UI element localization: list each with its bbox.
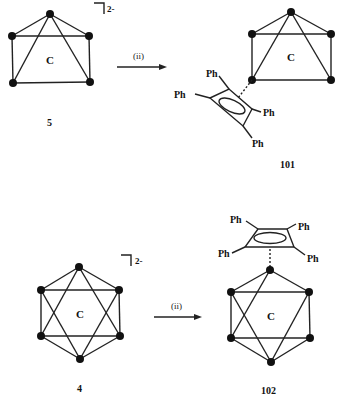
phenyl-label: Ph [298,221,310,232]
condition-label: (ii) [171,301,182,311]
phenyl-label: Ph [174,89,186,100]
structure-101: C Ph Ph Ph Ph 101 [174,8,335,170]
phenyl-label: Ph [206,68,218,79]
center-atom-label: C [76,308,84,320]
reaction-arrow: (ii) [117,51,167,70]
compound-number: 5 [47,117,52,128]
compound-number: 4 [77,383,82,394]
structure-4: C 2- 4 [37,255,143,394]
reaction-scheme: C 2- 5 (ii) C Ph Ph Ph [0,0,337,402]
compound-number: 102 [261,385,276,396]
reaction-arrow: (ii) [154,301,202,320]
phenyl-label: Ph [230,214,242,225]
phenyl-label: Ph [263,107,275,118]
charge-label: 2- [135,256,143,266]
structure-5: C 2- 5 [8,3,115,128]
charge-label: 2- [107,4,115,14]
center-atom-label: C [46,54,54,66]
center-atom-label: C [287,51,295,63]
condition-label: (ii) [133,51,144,61]
center-atom-label: C [267,310,275,322]
phenyl-label: Ph [218,248,230,259]
structure-102: Ph Ph Ph Ph C 102 [218,214,319,396]
phenyl-label: Ph [252,138,264,149]
phenyl-label: Ph [307,253,319,264]
compound-number: 101 [280,159,295,170]
